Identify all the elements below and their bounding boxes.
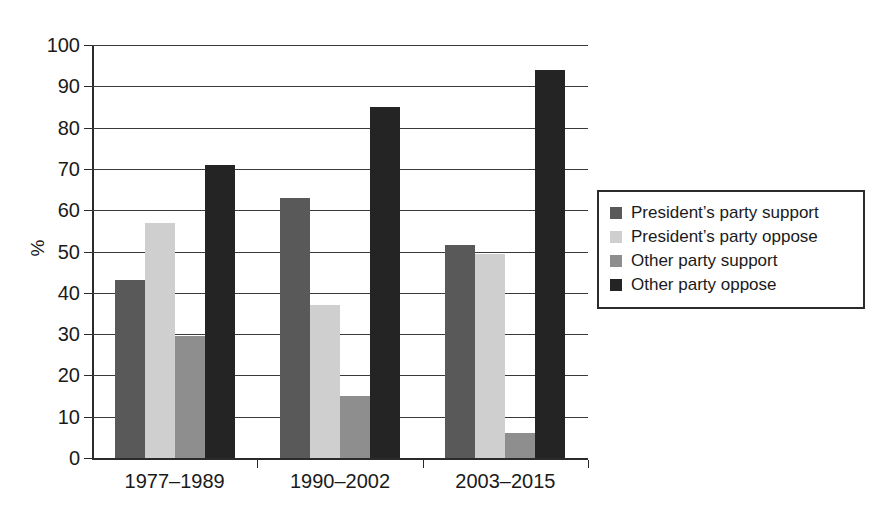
legend-swatch-icon [610, 255, 622, 267]
legend-item[interactable]: Other party support [610, 249, 853, 273]
bar [115, 280, 145, 458]
gridline [92, 45, 588, 46]
y-axis-tick-label: 100 [47, 35, 80, 55]
bar [535, 70, 565, 458]
y-axis-tick-label: 80 [58, 118, 80, 138]
bar [340, 396, 370, 458]
legend-swatch-icon [610, 231, 622, 243]
legend-swatch-icon [610, 279, 622, 291]
x-axis-line [92, 458, 588, 460]
y-axis-tick-label: 70 [58, 159, 80, 179]
bar [175, 336, 205, 458]
bar [145, 223, 175, 458]
legend-item[interactable]: President’s party oppose [610, 225, 853, 249]
legend-item-label: President’s party oppose [631, 227, 818, 247]
x-axis-tick [257, 460, 258, 468]
x-axis-tick [588, 460, 589, 468]
bar [475, 254, 505, 458]
y-axis-tick [84, 45, 92, 46]
y-axis-tick [84, 210, 92, 211]
bar [205, 165, 235, 458]
y-axis-tick-label: 0 [69, 448, 80, 468]
x-axis-tick [423, 460, 424, 468]
bar-chart: % 1009080706050403020100 1977–19891990–2… [0, 0, 896, 510]
bar [505, 433, 535, 458]
y-axis-tick-label: 60 [58, 200, 80, 220]
legend-item[interactable]: President’s party support [610, 201, 853, 225]
y-axis-tick-label: 30 [58, 324, 80, 344]
x-axis-group-label: 2003–2015 [423, 470, 588, 492]
x-axis-group-label: 1990–2002 [257, 470, 422, 492]
gridline [92, 128, 588, 129]
y-axis-line [92, 45, 94, 460]
gridline [92, 169, 588, 170]
y-axis-tick [84, 417, 92, 418]
x-axis-group-label: 1977–1989 [92, 470, 257, 492]
plot-area: 1009080706050403020100 [92, 45, 588, 460]
legend-item[interactable]: Other party oppose [610, 273, 853, 297]
legend-item-label: Other party support [631, 251, 777, 271]
bar [310, 305, 340, 458]
bar [445, 245, 475, 458]
y-axis-tick [84, 169, 92, 170]
y-axis-tick [84, 128, 92, 129]
y-axis-tick [84, 293, 92, 294]
y-axis-title: % [26, 228, 50, 268]
gridline [92, 210, 588, 211]
legend-swatch-icon [610, 207, 622, 219]
y-axis-tick-label: 20 [58, 365, 80, 385]
legend-item-label: Other party oppose [631, 275, 777, 295]
y-axis-tick-label: 40 [58, 283, 80, 303]
y-axis-tick [84, 86, 92, 87]
y-axis-tick [84, 458, 92, 459]
y-axis-tick-label: 50 [58, 242, 80, 262]
y-axis-tick-label: 90 [58, 76, 80, 96]
bar [280, 198, 310, 458]
legend-item-label: President’s party support [631, 203, 819, 223]
gridline [92, 86, 588, 87]
bar [370, 107, 400, 458]
y-axis-tick-label: 10 [58, 407, 80, 427]
y-axis-tick [84, 375, 92, 376]
y-axis-tick [84, 252, 92, 253]
y-axis-tick [84, 334, 92, 335]
legend: President’s party supportPresident’s par… [597, 190, 865, 309]
